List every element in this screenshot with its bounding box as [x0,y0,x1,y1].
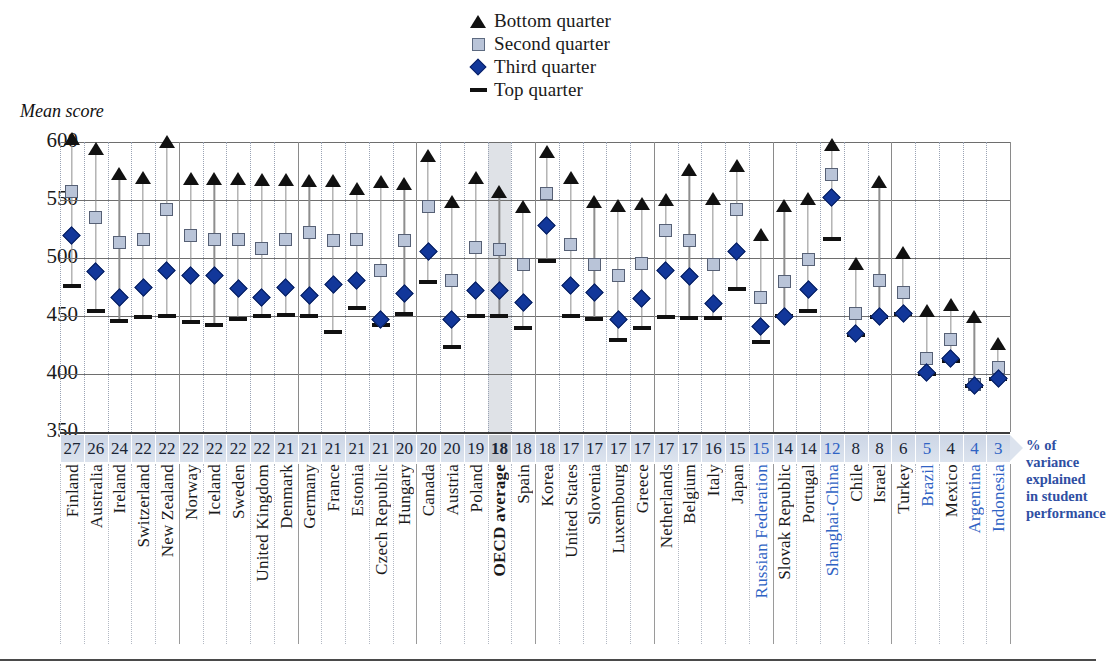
data-point-dash [538,259,556,263]
variance-cell-separator [963,435,964,462]
label-separator [915,464,917,644]
data-column [108,142,132,432]
data-point-diamond [775,307,793,325]
variance-pct-cell: 14 [796,435,820,462]
data-point-dash [253,314,271,318]
variance-pct-cell: 6 [891,435,915,462]
variance-pct-cell: 17 [606,435,630,462]
category-label-luxembourg: Luxembourg [609,464,629,554]
variance-pct-cell: 15 [725,435,749,462]
data-point-diamond [514,293,532,311]
data-point-triangle [111,167,127,180]
data-point-triangle [325,174,341,187]
label-separator [701,464,703,644]
data-point-diamond [823,188,841,206]
variance-pct-cell: 8 [868,435,892,462]
variance-pct-cell: 21 [321,435,345,462]
variance-pct-cell: 19 [464,435,488,462]
variance-cell-separator [155,435,156,462]
variance-cell-separator [701,435,702,462]
data-point-square [517,258,530,271]
data-point-diamond [466,281,484,299]
data-point-diamond [561,277,579,295]
variance-percent-row: 2726242222222222222121212121202020191818… [60,435,1010,462]
category-label-turkey: Turkey [894,464,914,514]
data-column [796,142,820,432]
variance-pct-cell: 22 [226,435,250,462]
label-separator [131,464,133,644]
variance-cell-separator [416,435,417,462]
data-point-triangle [420,149,436,162]
label-separator [820,464,822,644]
label-separator [250,464,252,644]
data-point-square [754,291,767,304]
data-point-diamond [395,285,413,303]
data-point-triangle [301,174,317,187]
label-separator [654,464,655,644]
data-point-diamond [110,288,128,306]
data-point-diamond [443,310,461,328]
data-point-dash [728,287,746,291]
variance-pct-cell: 21 [369,435,393,462]
data-point-square [730,203,743,216]
category-label-hungary: Hungary [395,464,415,525]
variance-cell-separator [630,435,631,462]
category-label-france: France [324,464,344,511]
variance-pct-cell: 20 [416,435,440,462]
data-column [203,142,227,432]
category-label-spain: Spain [514,464,534,504]
data-column [60,142,84,432]
data-point-square [327,234,340,247]
data-point-diamond [324,275,342,293]
data-point-dash [609,338,627,342]
category-label-slovenia: Slovenia [585,464,605,525]
legend-label-bottom-quarter: Bottom quarter [494,10,611,32]
legend-label-second-quarter: Second quarter [494,33,610,55]
data-point-diamond [609,310,627,328]
label-separator [298,464,299,644]
variance-pct-cell: 22 [203,435,227,462]
variance-cell-separator [440,435,441,462]
category-labels: FinlandAustraliaIrelandSwitzerlandNew Ze… [60,464,1010,644]
data-point-dash [395,312,413,316]
data-point-square [612,269,625,282]
category-label-denmark: Denmark [277,464,297,529]
data-point-triangle [871,175,887,188]
data-point-square [255,242,268,255]
data-point-diamond [300,286,318,304]
data-column [630,142,654,432]
data-point-dash [324,330,342,334]
variance-pct-cell: 21 [274,435,298,462]
range-stem [427,162,428,283]
variance-pct-cell: 8 [844,435,868,462]
data-column [654,142,678,432]
variance-pct-cell: 26 [84,435,108,462]
label-separator [179,464,180,644]
data-point-triangle [634,197,650,210]
variance-pct-cell: 18 [511,435,535,462]
data-point-square [160,203,173,216]
category-label-germany: Germany [300,464,320,529]
data-column [678,142,702,432]
data-column [321,142,345,432]
variance-cell-separator [654,435,655,462]
data-point-triangle [658,193,674,206]
category-label-united-states: United States [562,464,582,558]
variance-cell-separator [464,435,465,462]
data-point-diamond [181,266,199,284]
data-point-diamond [728,242,746,260]
data-point-triangle [586,195,602,208]
variance-pct-cell: 17 [559,435,583,462]
variance-pct-cell: 18 [535,435,559,462]
variance-cell-separator [915,435,916,462]
data-column [606,142,630,432]
category-label-netherlands: Netherlands [657,464,677,548]
variance-pct-cell: 27 [60,435,84,462]
data-column [583,142,607,432]
data-column [844,142,868,432]
variance-cell-separator [321,435,322,462]
data-point-dash [443,345,461,349]
data-point-diamond [585,284,603,302]
data-column [963,142,987,432]
